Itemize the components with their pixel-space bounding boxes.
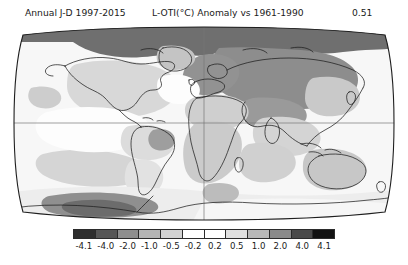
colorbar-tick: 1.0 [252, 241, 266, 251]
map-canvas [13, 26, 395, 221]
colorbar-tick: -4.0 [97, 241, 114, 251]
colorbar [73, 229, 335, 239]
colorbar-bin [248, 230, 270, 238]
colorbar-tick-labels: -4.1-4.0-2.0-1.0-0.5-0.20.20.51.02.04.04… [60, 241, 350, 255]
colorbar-bin [74, 230, 96, 238]
colorbar-tick: -2.0 [119, 241, 136, 251]
colorbar-bin [313, 230, 334, 238]
colorbar-bin [270, 230, 292, 238]
colorbar-tick: 2.0 [274, 241, 288, 251]
colorbar-bin [205, 230, 227, 238]
colorbar-bin [183, 230, 205, 238]
colorbar-tick: -0.2 [185, 241, 202, 251]
figure-title-row: Annual J-D 1997-2015 L-OTI(°C) Anomaly v… [0, 7, 408, 23]
colorbar-bin [292, 230, 314, 238]
colorbar-bin [118, 230, 140, 238]
colorbar-bin [226, 230, 248, 238]
colorbar-tick: 4.1 [317, 241, 331, 251]
world-anomaly-map [13, 26, 395, 221]
variable-label: L-OTI(°C) Anomaly vs 1961-1990 [152, 7, 304, 18]
colorbar-tick: -4.1 [76, 241, 93, 251]
colorbar-tick: -0.5 [163, 241, 180, 251]
global-mean-value: 0.51 [352, 7, 372, 18]
colorbar-tick: 4.0 [295, 241, 309, 251]
colorbar-tick: 0.5 [230, 241, 244, 251]
period-label: Annual J-D 1997-2015 [25, 7, 126, 18]
climate-anomaly-figure: Annual J-D 1997-2015 L-OTI(°C) Anomaly v… [0, 0, 408, 265]
colorbar-bin [139, 230, 161, 238]
colorbar-bin [96, 230, 118, 238]
colorbar-bin [161, 230, 183, 238]
colorbar-tick: 0.2 [208, 241, 222, 251]
colorbar-tick: -1.0 [141, 241, 158, 251]
